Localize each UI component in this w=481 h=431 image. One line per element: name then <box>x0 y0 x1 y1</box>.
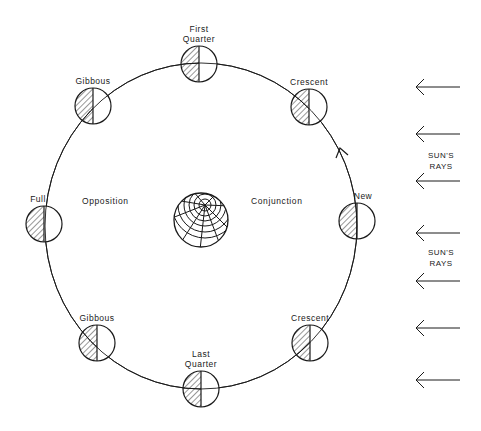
phase-label-line2: Quarter <box>185 359 217 369</box>
sun-ray-arrow-left-icon <box>416 273 460 289</box>
phase-label-line1: First <box>183 24 215 34</box>
phase-label-line1: New <box>354 191 373 201</box>
sun-ray-arrow-left-icon <box>416 225 460 241</box>
earth-globe-icon <box>172 172 238 250</box>
sun-rays-label-line1: SUN'S <box>428 150 454 161</box>
conjunction-label: Conjunction <box>251 196 303 206</box>
sun-rays-label-lower: SUN'S RAYS <box>428 247 454 269</box>
phase-label-line2: Quarter <box>183 34 215 44</box>
phase-label-line1: Full <box>30 194 46 204</box>
moon-full-icon <box>26 206 62 242</box>
phase-label-line1: Gibbous <box>79 313 114 323</box>
phase-label-gibbous-lower: Gibbous <box>79 313 114 323</box>
phase-label-first-quarter: FirstQuarter <box>183 24 215 44</box>
phase-label-crescent-upper: Crescent <box>290 77 328 87</box>
phase-label-line1: Last <box>185 349 217 359</box>
opposition-label: Opposition <box>82 196 129 206</box>
sun-ray-arrow-left-icon <box>416 372 460 388</box>
phase-label-last-quarter: LastQuarter <box>185 349 217 369</box>
sun-ray-arrow-left-icon <box>416 126 460 142</box>
phase-label-line1: Crescent <box>290 77 328 87</box>
phase-label-crescent-lower: Crescent <box>291 313 329 323</box>
sun-ray-arrow-left-icon <box>416 173 460 189</box>
sun-rays-label-upper: SUN'S RAYS <box>428 150 454 172</box>
phase-label-line1: Gibbous <box>75 76 110 86</box>
sun-rays-arrows <box>416 79 460 388</box>
moon-phases-diagram <box>0 0 481 431</box>
phase-label-full: Full <box>30 194 46 204</box>
phase-label-gibbous-upper: Gibbous <box>75 76 110 86</box>
sun-rays-label-line1: SUN'S <box>428 247 454 258</box>
sun-ray-arrow-left-icon <box>416 79 460 95</box>
moon-gibbous-upper-icon <box>75 88 111 124</box>
phase-label-new: New <box>354 191 373 201</box>
moon-gibbous-lower-icon <box>79 325 115 361</box>
phase-label-line1: Crescent <box>291 313 329 323</box>
moon-crescent-upper-icon <box>291 89 327 125</box>
sun-rays-label-line2: RAYS <box>428 161 454 172</box>
sun-rays-label-line2: RAYS <box>428 258 454 269</box>
sun-ray-arrow-left-icon <box>416 320 460 336</box>
